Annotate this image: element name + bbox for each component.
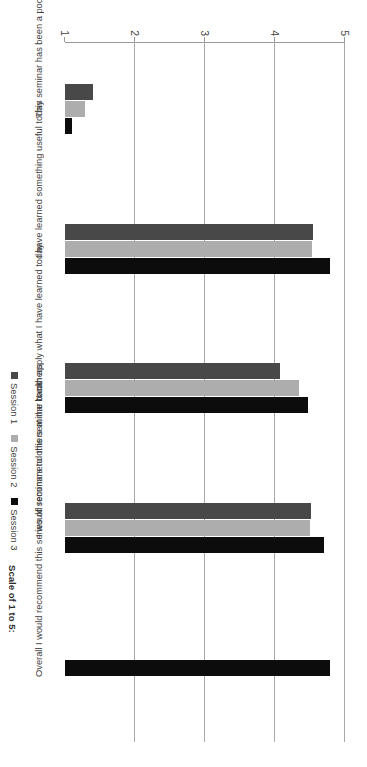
y-tick-label: 4 bbox=[270, 16, 281, 36]
legend-swatch-icon bbox=[11, 498, 18, 505]
bar-group bbox=[65, 462, 345, 602]
legend-label: Session 1 bbox=[10, 383, 19, 424]
y-tick-mark bbox=[204, 37, 205, 42]
bar-3 bbox=[65, 258, 330, 274]
legend-item[interactable]: Session 1 bbox=[10, 372, 19, 424]
scale-note: Scale of 1 to 5: bbox=[7, 565, 17, 633]
bar-1 bbox=[65, 363, 280, 379]
bar-group bbox=[65, 602, 345, 742]
chart-legend: Session 1Session 2Session 3 bbox=[10, 372, 19, 551]
bar-2 bbox=[65, 520, 310, 536]
legend-item[interactable]: Session 2 bbox=[10, 435, 19, 487]
chart-stage: 12345 This seminar has been a poor use o… bbox=[0, 0, 367, 767]
bar-group bbox=[65, 323, 345, 463]
y-tick-mark bbox=[274, 37, 275, 42]
bar-group bbox=[65, 183, 345, 323]
y-tick-mark bbox=[344, 37, 345, 42]
plot-canvas: 12345 bbox=[65, 42, 345, 742]
category-label: Overall I would recommend this series of… bbox=[35, 382, 44, 678]
y-tick-mark bbox=[64, 37, 65, 42]
bar-1 bbox=[65, 224, 314, 240]
bar-1 bbox=[65, 84, 93, 100]
bar-2 bbox=[65, 241, 312, 257]
legend-label: Session 3 bbox=[10, 509, 19, 550]
y-tick-label: 2 bbox=[130, 16, 141, 36]
bar-groups bbox=[65, 43, 345, 742]
category-labels: This seminar has been a poor use of my t… bbox=[29, 43, 59, 742]
legend-item[interactable]: Session 3 bbox=[10, 498, 19, 550]
bar-3 bbox=[65, 118, 72, 134]
category-label: I have learned something useful today bbox=[35, 101, 44, 258]
bar-2 bbox=[65, 101, 85, 117]
bar-3 bbox=[65, 537, 324, 553]
legend-label: Session 2 bbox=[10, 446, 19, 487]
bar-3 bbox=[65, 397, 308, 413]
y-tick-label: 1 bbox=[60, 16, 71, 36]
legend-swatch-icon bbox=[11, 435, 18, 442]
y-tick-label: 5 bbox=[340, 16, 351, 36]
legend-swatch-icon bbox=[11, 372, 18, 379]
y-tick-label: 3 bbox=[200, 16, 211, 36]
bar-1 bbox=[65, 503, 311, 519]
y-tick-mark bbox=[134, 37, 135, 42]
plot-area: 12345 This seminar has been a poor use o… bbox=[25, 42, 345, 742]
bar-group bbox=[65, 43, 345, 183]
bar-3 bbox=[65, 660, 330, 676]
bar-2 bbox=[65, 380, 300, 396]
